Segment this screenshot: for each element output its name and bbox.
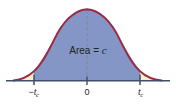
area-label-text: Area =	[69, 45, 102, 56]
area-label-symbol: c	[102, 44, 107, 56]
axis-tick-label-pos-tc: tc	[123, 87, 159, 98]
area-annotation: Area = c	[48, 44, 128, 56]
t-subscript-right: c	[140, 91, 143, 99]
t-distribution-figure: Area = c −tc 0 tc	[0, 0, 176, 108]
axis-tick-label-zero: 0	[70, 87, 104, 97]
t-subscript-left: c	[36, 91, 39, 99]
axis-tick-label-neg-tc: −tc	[16, 87, 52, 98]
